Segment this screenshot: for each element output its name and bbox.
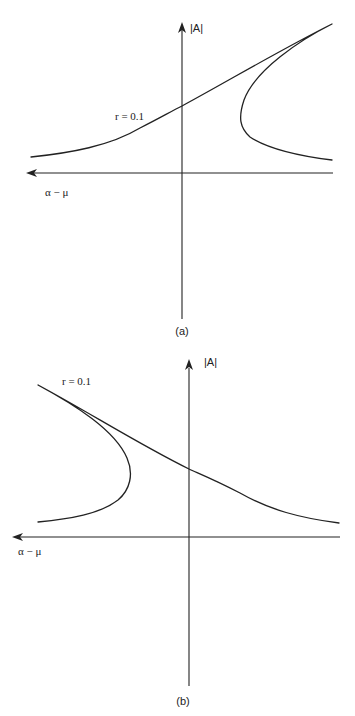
panel-b-x-axis-label: α − μ xyxy=(18,545,41,557)
panel-a-caption: (a) xyxy=(175,325,188,337)
panel-a-y-axis-label: |A| xyxy=(190,22,203,34)
panel-a-curve-label: r = 0.1 xyxy=(115,110,144,122)
bifurcation-figure: |A| α − μ r = 0.1 (a) |A| α − μ r = 0.1 … xyxy=(0,0,355,716)
panel-a: |A| α − μ r = 0.1 (a) xyxy=(26,22,333,337)
panel-b-caption: (b) xyxy=(176,695,189,707)
panel-b-curve-label: r = 0.1 xyxy=(62,375,91,387)
panel-b: |A| α − μ r = 0.1 (b) xyxy=(12,356,340,707)
panel-b-y-axis-label: |A| xyxy=(204,356,217,368)
panel-a-x-axis-label: α − μ xyxy=(45,186,68,198)
